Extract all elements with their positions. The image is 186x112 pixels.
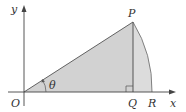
point-r-label: R [147, 97, 156, 110]
y-axis-label: y [10, 3, 18, 16]
origin-label: O [11, 97, 20, 110]
point-q-label: Q [128, 97, 137, 110]
angle-theta-label: θ [49, 79, 56, 92]
x-axis-label: x [170, 97, 177, 110]
y-axis-arrow-icon [22, 5, 27, 12]
x-axis-arrow-icon [169, 90, 176, 95]
sector-diagram: y x O P Q R θ [0, 0, 186, 112]
point-p-label: P [127, 7, 136, 20]
